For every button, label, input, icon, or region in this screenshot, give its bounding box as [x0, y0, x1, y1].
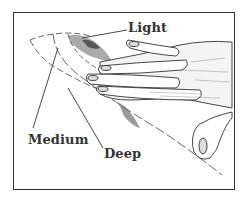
label-medium: Medium	[28, 132, 89, 147]
hand-illustration	[0, 0, 250, 205]
label-light: Light	[128, 20, 167, 35]
label-deep: Deep	[104, 146, 141, 161]
